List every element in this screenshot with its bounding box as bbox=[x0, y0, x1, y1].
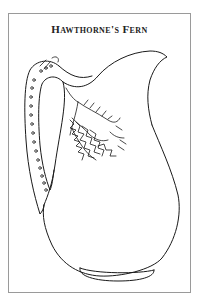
pitcher-body bbox=[43, 82, 179, 276]
pitcher-illustration bbox=[0, 0, 199, 298]
pitcher-handle bbox=[25, 57, 63, 214]
fern-decoration bbox=[66, 88, 126, 160]
handle-dots bbox=[30, 65, 53, 192]
